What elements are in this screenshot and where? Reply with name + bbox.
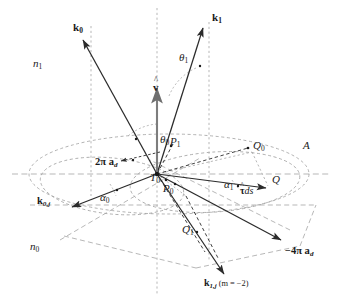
- label-n1: n1: [33, 58, 42, 71]
- label-P0: P0: [163, 183, 173, 196]
- point-T0-dot: [165, 179, 167, 181]
- label-Q1: Q1: [182, 224, 194, 237]
- guide-lines: [12, 8, 330, 296]
- label-minus-four-pi-ad: −4π ad: [285, 246, 313, 258]
- label-Q: Q: [272, 174, 280, 185]
- label-Q0: Q0: [253, 140, 265, 153]
- Q0-to-Q-guide: [252, 152, 268, 186]
- point-two-pi-ad-dot: [132, 159, 134, 161]
- point-theta1-dot: [199, 65, 201, 67]
- point-theta0-dot: [135, 138, 137, 140]
- label-k1j: k1,j (m = −2): [204, 278, 249, 290]
- label-v-hat: v: [153, 82, 159, 93]
- point-Q1-dot: [196, 231, 198, 233]
- label-alpha0: α0: [100, 192, 110, 205]
- label-tau-ds: τds: [240, 186, 254, 196]
- point-P0-dot: [174, 183, 176, 185]
- diffraction-vector-diagram: k0 k1 n1 n0 θ1 θ0 v 2π ad k0,j α0 α1 τds…: [0, 0, 340, 304]
- point-markers: [116, 65, 250, 233]
- label-A: A: [303, 140, 310, 151]
- base-plane-bottom-left: [64, 236, 196, 268]
- origin-to-Q0-guide: [157, 152, 252, 174]
- label-two-pi-ad: 2π ad: [95, 157, 117, 169]
- label-theta1: θ1: [179, 52, 188, 65]
- label-theta0: θ0: [160, 134, 169, 147]
- label-k0j: k0,j: [37, 196, 50, 208]
- point-alpha0-dot: [116, 189, 118, 191]
- point-alpha1-dot: [237, 185, 239, 187]
- diagram-canvas: [0, 0, 340, 304]
- vector-k0j: [72, 174, 157, 207]
- base-plane-diagonal-left: [60, 158, 200, 240]
- label-P1: P1: [170, 136, 180, 149]
- label-k1: k1: [212, 12, 222, 25]
- vector-k1: [157, 28, 203, 174]
- construction-ellipses: [29, 134, 309, 221]
- point-Q0-dot: [247, 147, 250, 150]
- label-n0: n0: [30, 241, 39, 254]
- wave-vectors: [72, 28, 281, 274]
- label-k0: k0: [73, 22, 83, 35]
- base-plane-right-edge: [300, 205, 316, 246]
- label-T0: T0: [150, 172, 160, 185]
- label-alpha1: α1: [224, 179, 234, 192]
- origin-to-P1-Q0-dashed: [157, 148, 248, 174]
- two-pi-ad-direction-arrow: [121, 152, 160, 161]
- vector-k0: [83, 40, 157, 174]
